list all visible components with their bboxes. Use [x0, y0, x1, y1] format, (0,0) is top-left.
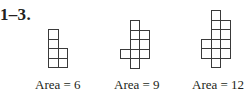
caption-area-12: Area = 12 [192, 77, 244, 93]
grid-cell [211, 58, 222, 69]
caption-area-9: Area = 9 [114, 77, 160, 93]
grid-cell [58, 58, 69, 69]
grid-cell [130, 58, 141, 69]
problem-number-heading: 1–3. [0, 5, 31, 25]
grid-cell [220, 48, 231, 59]
caption-area-6: Area = 6 [35, 77, 81, 93]
grid-cell [139, 49, 150, 60]
